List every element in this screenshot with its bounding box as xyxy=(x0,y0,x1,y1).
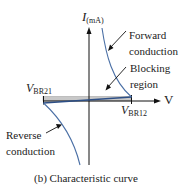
reverse-conduction-label: Reverse conduction xyxy=(6,127,55,159)
vbr12-label: VBR12 xyxy=(121,104,147,118)
vbr21-sub: BR21 xyxy=(33,87,52,96)
forward-label-line1: Forward xyxy=(129,27,178,43)
blocking-label-line1: Blocking xyxy=(130,60,170,76)
x-axis-arrowhead-icon xyxy=(154,99,161,104)
reverse-label-line2: conduction xyxy=(6,143,55,159)
y-axis-label: I(mA) xyxy=(82,10,104,25)
blocking-pointer-line xyxy=(108,67,126,87)
reverse-pointer-arrow-icon xyxy=(56,124,62,129)
forward-conduction-label: Forward conduction xyxy=(129,27,178,59)
y-axis-arrowhead-icon xyxy=(87,27,92,34)
reverse-label-line1: Reverse xyxy=(6,127,55,143)
forward-conduction-curve xyxy=(102,28,132,97)
x-axis-label: V xyxy=(164,93,173,106)
vbr21-label: VBR21 xyxy=(26,82,52,96)
forward-label-line2: conduction xyxy=(129,43,178,59)
vbr12-sub: BR12 xyxy=(128,109,147,118)
forward-pointer-line xyxy=(110,31,126,48)
blocking-region-label: Blocking region xyxy=(130,60,170,92)
y-axis-unit: (mA) xyxy=(86,16,103,25)
blocking-label-line2: region xyxy=(130,76,170,92)
figure-caption: (b) Characteristic curve xyxy=(34,173,138,184)
